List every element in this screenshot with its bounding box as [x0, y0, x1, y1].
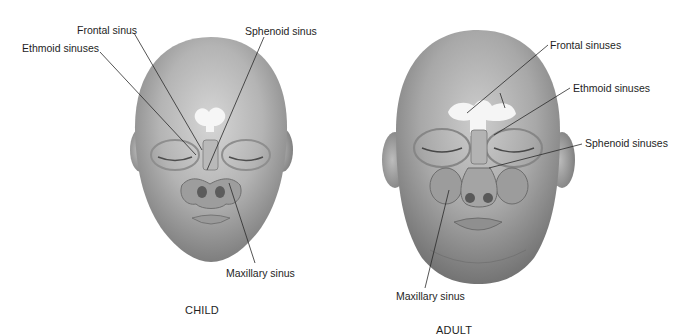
- adult-head: [382, 30, 575, 284]
- adult-left-maxillary-sinus: [430, 168, 462, 204]
- child-left-nostril: [197, 186, 207, 198]
- adult-sphenoid-sinuses-label: Sphenoid sinuses: [585, 138, 668, 149]
- adult-right-nostril: [483, 193, 493, 203]
- adult-caption: ADULT: [436, 325, 472, 336]
- sinus-diagram: Frontal sinus Ethmoid sinuses Sphenoid s…: [0, 0, 680, 336]
- child-caption: CHILD: [185, 305, 219, 316]
- child-right-nostril: [215, 186, 225, 198]
- adult-right-maxillary-sinus: [496, 168, 528, 204]
- child-frontal-sinus-label: Frontal sinus: [77, 25, 137, 36]
- adult-left-nostril: [465, 193, 475, 203]
- adult-maxillary-sinus-label: Maxillary sinus: [396, 291, 465, 302]
- child-ethmoid-sinuses-label: Ethmoid sinuses: [22, 43, 99, 54]
- child-head: [130, 37, 293, 262]
- child-sphenoid-sinus-label: Sphenoid sinus: [245, 26, 317, 37]
- child-ethmoid-sinuses: [203, 140, 218, 170]
- child-maxillary-sinus-label: Maxillary sinus: [226, 268, 295, 279]
- adult-frontal-sinuses-label: Frontal sinuses: [550, 40, 621, 51]
- child-maxillary-sinus: [181, 179, 241, 209]
- adult-ethmoid-sinuses-label: Ethmoid sinuses: [573, 83, 650, 94]
- adult-ethmoid-sinuses: [471, 130, 487, 164]
